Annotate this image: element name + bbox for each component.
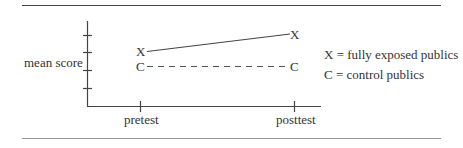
series-x-line [147, 34, 290, 52]
x-tick-label-posttest: posttest [276, 112, 316, 127]
legend-item-c: C = control publics [324, 67, 424, 82]
series-x-marker-posttest: X [290, 27, 299, 42]
series-c-marker-pretest: C [136, 59, 145, 74]
legend-item-x: X = fully exposed publics [324, 47, 458, 62]
series-c-marker-posttest: C [290, 59, 299, 74]
series-x-marker-pretest: X [136, 44, 145, 59]
y-axis-label: mean score [24, 55, 83, 70]
x-tick-label-pretest: pretest [124, 112, 159, 127]
